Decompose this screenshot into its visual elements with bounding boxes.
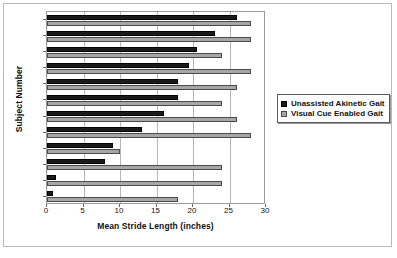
bar-row — [47, 60, 264, 76]
bar-visual-cue-enabled-gait — [47, 197, 178, 202]
bar-visual-cue-enabled-gait — [47, 165, 222, 170]
x-tick-mark — [192, 204, 193, 207]
x-tick-mark — [83, 204, 84, 207]
bar-visual-cue-enabled-gait — [47, 53, 222, 58]
legend-swatch-dark — [281, 101, 287, 107]
bar-row — [47, 44, 264, 60]
bar-visual-cue-enabled-gait — [47, 69, 251, 74]
bar-row — [47, 92, 264, 108]
x-tick-label: 10 — [107, 207, 131, 215]
bar-row — [47, 12, 264, 28]
x-tick-label: 0 — [34, 207, 58, 215]
x-tick-mark — [119, 204, 120, 207]
bar-visual-cue-enabled-gait — [47, 101, 222, 106]
x-axis-title: Mean Stride Length (inches) — [46, 221, 265, 231]
bar-visual-cue-enabled-gait — [47, 149, 120, 154]
bar-row — [47, 157, 264, 173]
chart-figure: Subject Number 123456789101112 051015202… — [0, 0, 397, 258]
bar-unassisted-akinetic-gait — [47, 15, 237, 20]
x-tick-mark — [46, 204, 47, 207]
x-tick-mark — [229, 204, 230, 207]
bar-visual-cue-enabled-gait — [47, 133, 251, 138]
x-tick-label: 25 — [217, 207, 241, 215]
x-tick-label: 15 — [144, 207, 168, 215]
legend-item: Visual Cue Enabled Gait — [281, 109, 385, 118]
bar-unassisted-akinetic-gait — [47, 191, 53, 196]
x-tick-label: 30 — [253, 207, 277, 215]
bar-rows — [47, 12, 264, 203]
bar-unassisted-akinetic-gait — [47, 31, 215, 36]
legend-label: Visual Cue Enabled Gait — [291, 109, 383, 118]
legend-label: Unassisted Akinetic Gait — [291, 99, 385, 108]
bar-unassisted-akinetic-gait — [47, 95, 178, 100]
bar-visual-cue-enabled-gait — [47, 21, 251, 26]
bar-visual-cue-enabled-gait — [47, 117, 237, 122]
bar-row — [47, 125, 264, 141]
bar-visual-cue-enabled-gait — [47, 37, 251, 42]
bar-row — [47, 76, 264, 92]
bar-unassisted-akinetic-gait — [47, 47, 197, 52]
bar-visual-cue-enabled-gait — [47, 181, 222, 186]
bar-unassisted-akinetic-gait — [47, 127, 142, 132]
chart-legend: Unassisted Akinetic GaitVisual Cue Enabl… — [277, 94, 390, 123]
bar-row — [47, 28, 264, 44]
bar-unassisted-akinetic-gait — [47, 175, 56, 180]
bar-visual-cue-enabled-gait — [47, 85, 237, 90]
bar-unassisted-akinetic-gait — [47, 79, 178, 84]
bar-unassisted-akinetic-gait — [47, 63, 189, 68]
x-tick-mark — [156, 204, 157, 207]
plot-area — [46, 11, 265, 204]
legend-item: Unassisted Akinetic Gait — [281, 99, 385, 108]
x-tick-mark — [265, 204, 266, 207]
x-tick-label: 20 — [180, 207, 204, 215]
bar-unassisted-akinetic-gait — [47, 143, 113, 148]
legend-swatch-light — [281, 111, 287, 117]
bar-unassisted-akinetic-gait — [47, 111, 164, 116]
bar-row — [47, 189, 264, 204]
x-tick-label: 5 — [71, 207, 95, 215]
bar-unassisted-akinetic-gait — [47, 159, 105, 164]
bar-row — [47, 141, 264, 157]
y-axis-title: Subject Number — [14, 44, 24, 154]
bar-row — [47, 109, 264, 125]
bar-row — [47, 173, 264, 189]
